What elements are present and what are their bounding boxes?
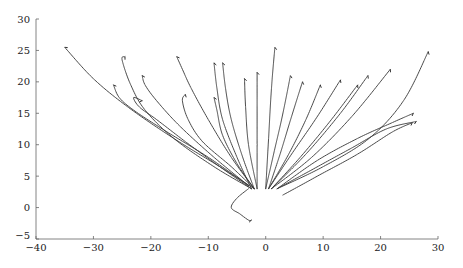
- trajectory-traj-21: [277, 52, 428, 189]
- trajectory-end-marker: [140, 101, 143, 102]
- x-ticks: −40−30−20−100102030: [25, 236, 444, 253]
- y-tick-label: −5: [15, 230, 30, 241]
- trajectory-end-marker: [320, 85, 321, 88]
- trajectory-traj-24: [283, 123, 412, 195]
- trajectory-traj-4: [142, 76, 248, 186]
- x-tick-label: −40: [25, 242, 46, 253]
- x-tick-label: −30: [83, 242, 104, 253]
- y-tick-label: 15: [17, 108, 30, 119]
- trajectory-traj-19: [272, 76, 368, 189]
- trajectory-end-marker: [185, 94, 186, 97]
- trajectory-traj-16: [269, 85, 321, 189]
- trajectory-end-marker: [428, 52, 429, 55]
- trajectory-traj-25: [231, 189, 251, 221]
- x-tick-label: 20: [374, 242, 387, 253]
- trajectory-end-marker: [340, 80, 341, 83]
- y-tick-label: 5: [24, 171, 30, 182]
- trajectory-traj-10: [223, 63, 255, 189]
- trajectory-end-marker: [303, 82, 304, 85]
- y-tick-label: 25: [17, 45, 30, 56]
- y-tick-label: 0: [24, 202, 30, 213]
- trajectory-traj-18: [272, 85, 358, 189]
- trajectory-traj-17: [269, 80, 341, 189]
- x-tick-label: 30: [432, 242, 445, 253]
- trajectory-chart: −40−30−20−100102030 −5051015202530: [0, 0, 463, 268]
- y-tick-label: 30: [17, 14, 30, 25]
- x-tick-label: −20: [140, 242, 161, 253]
- y-tick-label: 20: [17, 76, 30, 87]
- x-tick-label: 0: [263, 242, 269, 253]
- trajectories: [65, 47, 429, 222]
- trajectory-end-marker: [290, 76, 292, 79]
- trajectory-traj-11: [245, 79, 258, 189]
- x-tick-label: −10: [198, 242, 219, 253]
- trajectory-traj-15: [269, 82, 303, 189]
- y-tick-label: 10: [17, 139, 30, 150]
- x-tick-label: 10: [317, 242, 330, 253]
- y-ticks: −5051015202530: [15, 14, 39, 242]
